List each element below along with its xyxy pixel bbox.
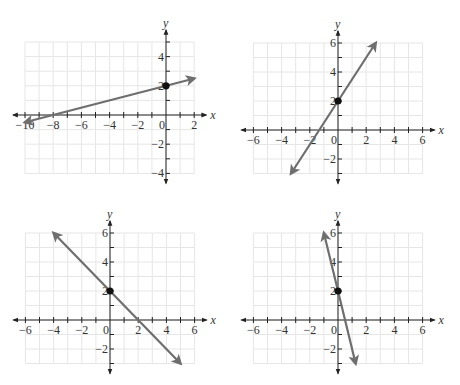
x-tick-label: 4 — [163, 323, 169, 337]
x-tick-label: 6 — [420, 323, 426, 337]
graph-d: −6−4−20246−2246xy — [241, 207, 444, 374]
x-tick-label: 6 — [192, 323, 198, 337]
graphs-canvas: −10−8−6−4−202−4−224xy −6−4−20246−2246xy … — [0, 0, 460, 385]
y-tick-label: −2 — [95, 342, 108, 356]
y-tick-label: −2 — [151, 137, 164, 151]
x-tick-label: −4 — [103, 118, 116, 132]
x-axis-label: x — [210, 313, 217, 327]
y-axis-label: y — [162, 16, 169, 30]
x-axis-label: x — [209, 108, 216, 122]
x-tick-label: −4 — [47, 323, 60, 337]
y-intercept-point — [334, 287, 341, 294]
x-tick-label: −2 — [303, 323, 316, 337]
y-tick-label: −4 — [151, 166, 164, 180]
x-tick-label: 4 — [391, 133, 397, 147]
y-axis-label: y — [334, 207, 341, 221]
line-y=-x+2 — [54, 233, 181, 364]
y-axis-label: y — [334, 17, 341, 31]
x-tick-label: 2 — [135, 323, 141, 337]
y-tick-label: −2 — [323, 342, 336, 356]
y-intercept-point — [106, 287, 113, 294]
x-tick-label: −2 — [75, 323, 88, 337]
y-tick-label: 6 — [330, 226, 336, 240]
x-axis-label: x — [438, 123, 445, 137]
x-tick-label: −6 — [19, 323, 32, 337]
x-tick-label: 2 — [191, 118, 197, 132]
y-tick-label: 4 — [102, 255, 108, 269]
y-intercept-point — [162, 82, 169, 89]
x-tick-label: −6 — [247, 323, 260, 337]
x-tick-label: 0 — [159, 118, 165, 132]
y-intercept-point — [334, 97, 341, 104]
x-tick-label: −8 — [47, 118, 60, 132]
x-tick-label: 0 — [331, 323, 337, 337]
y-axis-label: y — [106, 207, 113, 221]
x-tick-label: 2 — [363, 133, 369, 147]
x-tick-label: −4 — [275, 323, 288, 337]
x-tick-label: −6 — [247, 133, 260, 147]
x-tick-label: 4 — [391, 323, 397, 337]
x-axis-label: x — [438, 313, 445, 327]
y-tick-label: 4 — [158, 50, 164, 64]
y-tick-label: 6 — [102, 226, 108, 240]
y-tick-label: −2 — [323, 152, 336, 166]
x-tick-label: 0 — [331, 133, 337, 147]
graph-a: −10−8−6−4−202−4−224xy — [13, 16, 216, 183]
x-tick-label: 6 — [420, 133, 426, 147]
y-tick-label: 6 — [330, 36, 336, 50]
graph-c: −6−4−20246−2246xy — [13, 207, 216, 374]
x-tick-label: −6 — [75, 118, 88, 132]
graph-b: −6−4−20246−2246xy — [241, 17, 444, 184]
x-tick-label: −2 — [131, 118, 144, 132]
grid — [25, 42, 194, 173]
x-tick-label: −4 — [275, 133, 288, 147]
y-tick-label: 4 — [330, 65, 336, 79]
x-tick-label: 0 — [103, 323, 109, 337]
x-tick-label: 2 — [363, 323, 369, 337]
